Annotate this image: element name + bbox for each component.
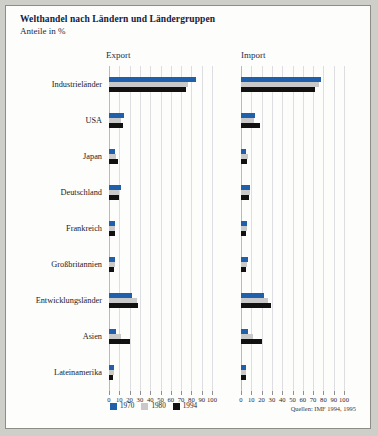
x-tick (313, 391, 314, 395)
bar-group (109, 77, 212, 92)
x-tick (119, 391, 120, 395)
bar-group (241, 149, 344, 164)
x-tick-label: 0 (239, 396, 242, 403)
category-label-deutschland: Deutschland (12, 188, 102, 197)
legend-label: 1994 (183, 402, 197, 410)
category-label-japan: Japan (12, 152, 102, 161)
bar-group (109, 257, 212, 272)
category-label-usa: USA (12, 116, 102, 125)
x-tick (241, 391, 242, 395)
x-tick (251, 391, 252, 395)
category-label-lateinamerika: Lateinamerika (12, 368, 102, 377)
legend-label: 1980 (151, 402, 165, 410)
legend-label: 1970 (120, 402, 134, 410)
chart-legend: 197019801994 (110, 402, 197, 410)
x-tick (191, 391, 192, 395)
x-tick (130, 391, 131, 395)
bar-1994 (109, 303, 138, 308)
category-label-entwicklungsl-nder: Entwicklungsländer (12, 296, 102, 305)
x-tick-label: 100 (339, 396, 349, 403)
x-tick-label: 70 (310, 396, 317, 403)
category-label-frankreich: Frankreich (12, 224, 102, 233)
x-tick (334, 391, 335, 395)
x-tick (272, 391, 273, 395)
x-tick (140, 391, 141, 395)
bar-group (241, 185, 344, 200)
bar-1994 (109, 195, 119, 200)
x-tick-label: 20 (258, 396, 265, 403)
bar-1994 (241, 123, 260, 128)
legend-item-1994: 1994 (173, 402, 197, 410)
x-tick (202, 391, 203, 395)
bar-1994 (109, 375, 113, 380)
bar-group (241, 221, 344, 236)
x-tick (171, 391, 172, 395)
bar-group (109, 221, 212, 236)
category-label-industriel-nder: Industrieländer (12, 80, 102, 89)
x-tick-label: 90 (330, 396, 337, 403)
bar-1994 (109, 159, 118, 164)
x-tick (282, 391, 283, 395)
x-tick-label: 60 (300, 396, 307, 403)
bar-1994 (241, 375, 246, 380)
x-tick (161, 391, 162, 395)
x-tick-label: 90 (198, 396, 205, 403)
category-label-gro-britannien: Großbritannien (12, 260, 102, 269)
bar-group (109, 293, 212, 308)
chart-panel-export: 0102030405060708090100 (109, 66, 212, 391)
x-tick-label: 80 (320, 396, 327, 403)
chart-panel-import: 0102030405060708090100 (241, 66, 344, 391)
bar-group (241, 293, 344, 308)
x-tick (303, 391, 304, 395)
panel-title-import: Import (241, 50, 266, 60)
bar-group (109, 365, 212, 380)
bar-1994 (241, 87, 315, 92)
figure-frame: Welthandel nach Ländern und Ländergruppe… (5, 5, 371, 429)
bar-1994 (241, 303, 271, 308)
legend-swatch-1980 (141, 403, 148, 410)
bar-1994 (109, 231, 115, 236)
x-tick (150, 391, 151, 395)
bar-group (241, 77, 344, 92)
x-tick (293, 391, 294, 395)
bar-1994 (241, 159, 247, 164)
bar-group (109, 329, 212, 344)
gridline-100 (344, 66, 345, 391)
bar-1994 (109, 339, 130, 344)
category-label-asien: Asien (12, 332, 102, 341)
bar-1994 (241, 195, 249, 200)
x-tick (212, 391, 213, 395)
bar-group (109, 185, 212, 200)
bar-group (241, 329, 344, 344)
legend-swatch-1994 (173, 403, 180, 410)
x-tick (109, 391, 110, 395)
bar-1994 (109, 267, 114, 272)
bar-group (109, 149, 212, 164)
bar-1994 (109, 87, 186, 92)
gridline-100 (212, 66, 213, 391)
x-tick (344, 391, 345, 395)
legend-swatch-1970 (110, 403, 117, 410)
bar-group (241, 113, 344, 128)
x-tick (181, 391, 182, 395)
x-tick (262, 391, 263, 395)
x-tick-label: 100 (207, 396, 217, 403)
bar-1994 (241, 339, 262, 344)
legend-item-1970: 1970 (110, 402, 134, 410)
x-tick-label: 30 (269, 396, 276, 403)
x-tick-label: 50 (289, 396, 296, 403)
x-tick-label: 10 (248, 396, 255, 403)
x-tick-label: 40 (279, 396, 286, 403)
page-title: Welthandel nach Ländern und Ländergruppe… (20, 14, 215, 24)
panel-title-export: Export (106, 50, 131, 60)
bar-1994 (241, 267, 246, 272)
page-subtitle: Anteile in % (20, 26, 66, 36)
source-note: Quellen: IMF 1994, 1995 (291, 405, 356, 412)
bar-group (109, 113, 212, 128)
bar-1994 (241, 231, 246, 236)
bar-group (241, 365, 344, 380)
bar-1994 (109, 123, 123, 128)
x-tick (323, 391, 324, 395)
legend-item-1980: 1980 (141, 402, 165, 410)
bar-group (241, 257, 344, 272)
